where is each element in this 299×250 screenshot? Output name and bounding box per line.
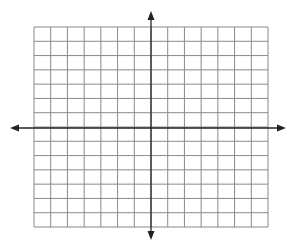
coordinate-plane [0, 0, 299, 250]
